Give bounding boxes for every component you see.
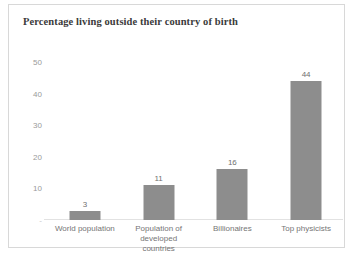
x-axis-label-line: World population: [50, 224, 120, 234]
bar-slot-world-population: 3: [48, 62, 122, 220]
bar-slot-top-physicists: 44: [269, 62, 343, 220]
y-axis-tick-0: -: [39, 216, 42, 225]
x-axis-label-billionaires: Billionaires: [196, 224, 270, 254]
x-axis-label-top-physicists: Top physicists: [269, 224, 343, 254]
y-axis-tick-20: 20: [33, 152, 42, 161]
y-axis-tick-10: 10: [33, 184, 42, 193]
bar-value-billionaires: 16: [228, 158, 237, 167]
bar-population-developed-countries[interactable]: [143, 185, 174, 220]
chart-frame: Percentage living outside their country …: [8, 4, 345, 248]
x-axis-label-line: developed countries: [124, 234, 194, 254]
x-axis-category-labels: World population Population of developed…: [48, 224, 343, 254]
y-axis-tick-30: 30: [33, 121, 42, 130]
chart-title: Percentage living outside their country …: [23, 16, 238, 27]
x-axis-label-line: Population of: [124, 224, 194, 234]
bar-billionaires[interactable]: [217, 169, 248, 220]
bar-slot-population-developed-countries: 11: [122, 62, 196, 220]
y-axis-tick-40: 40: [33, 89, 42, 98]
x-axis-label-line: Top physicists: [271, 224, 341, 234]
bar-slot-billionaires: 16: [196, 62, 270, 220]
x-axis-label-population-developed-countries: Population of developed countries: [122, 224, 196, 254]
x-axis-label-line: Billionaires: [198, 224, 268, 234]
x-axis-label-world-population: World population: [48, 224, 122, 254]
bar-value-top-physicists: 44: [302, 70, 311, 79]
bar-value-world-population: 3: [83, 200, 87, 209]
y-axis-tick-50: 50: [33, 58, 42, 67]
bar-value-population-developed-countries: 11: [154, 174, 162, 183]
bar-world-population[interactable]: [69, 211, 100, 220]
bar-top-physicists[interactable]: [291, 81, 322, 220]
bar-series: 3 11 16 44: [48, 62, 343, 220]
plot-area: 50 40 30 20 10 - 3 11 16 44: [48, 62, 343, 220]
